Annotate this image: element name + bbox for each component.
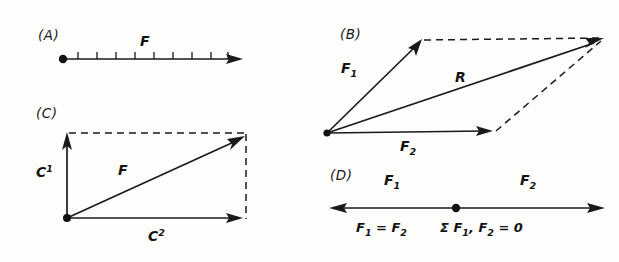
force-vector-figure: (A) F (B) xyxy=(0,0,619,262)
panel-a-origin-dot xyxy=(59,55,67,63)
panel-a: (A) F xyxy=(38,27,243,64)
panel-b-dashed-right xyxy=(496,41,601,131)
panel-b-dashed-top xyxy=(424,38,599,40)
panel-c-c1-label: C1 xyxy=(36,163,53,180)
panel-b-r-arrowhead xyxy=(585,38,604,48)
panel-d-f1-label: F1 xyxy=(384,172,400,191)
figure-canvas: (A) F (B) xyxy=(0,0,619,262)
panel-b-origin-dot xyxy=(323,129,330,136)
panel-a-vector-label: F xyxy=(140,33,150,49)
panel-a-tick-marks xyxy=(78,52,228,59)
panel-d-f2-label: F2 xyxy=(520,172,537,191)
panel-b-r-shaft xyxy=(327,43,594,133)
panel-c-label: (C) xyxy=(36,105,57,121)
panel-c-f-shaft xyxy=(67,141,236,218)
panel-b: (B) F1 F2 R xyxy=(323,26,604,157)
panel-d-sum-equation: Σ F1, F2 = 0 xyxy=(440,220,523,238)
panel-a-label: (A) xyxy=(38,27,59,43)
panel-d-equality-equation: F1 = F2 xyxy=(356,220,407,238)
panel-b-f1-label: F1 xyxy=(341,60,357,79)
panel-c: (C) C1 C2 F xyxy=(36,105,246,244)
panel-b-r-label: R xyxy=(455,69,466,85)
panel-b-f1-arrowhead xyxy=(408,39,422,56)
panel-b-f2-label: F2 xyxy=(400,138,417,157)
panel-b-f2-shaft xyxy=(327,131,484,133)
panel-c-c2-label: C2 xyxy=(148,227,165,244)
panel-c-f-label: F xyxy=(118,162,128,178)
panel-b-label: (B) xyxy=(340,26,361,42)
panel-d-center-dot xyxy=(452,204,460,212)
panel-d: (D) F1 F2 F1 = F2 Σ F1, F2 = 0 xyxy=(329,167,605,238)
panel-c-origin-dot xyxy=(63,214,71,222)
panel-d-label: (D) xyxy=(330,167,352,183)
